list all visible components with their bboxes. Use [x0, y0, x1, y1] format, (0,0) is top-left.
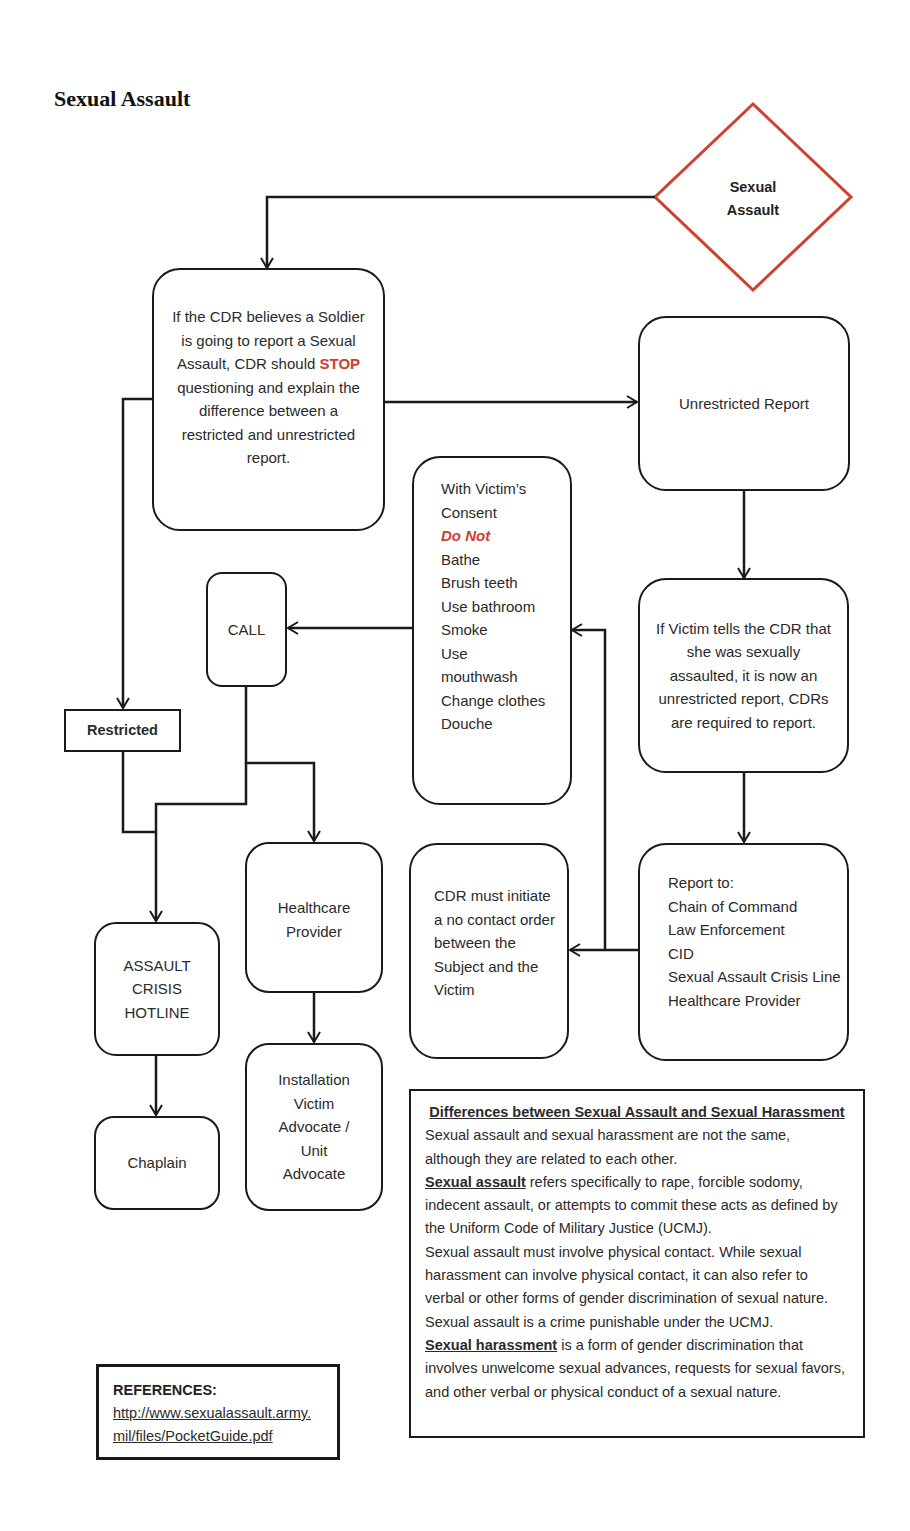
- call-box: CALL: [206, 572, 287, 687]
- references-heading: REFERENCES:: [113, 1379, 323, 1402]
- sexual-harassment-term: Sexual harassment: [425, 1337, 557, 1353]
- pocket-guide-link[interactable]: http://www.sexualassault.army.mil/files/…: [113, 1405, 311, 1444]
- report-to-item: Law Enforcement: [668, 918, 841, 942]
- report-to-item: Sexual Assault Crisis Line: [668, 965, 841, 989]
- victim-consent-box: With Victim’s Consent Do Not Bathe Brush…: [412, 456, 572, 805]
- restricted-box: Restricted: [64, 709, 181, 752]
- report-to-box: Report to: Chain of Command Law Enforcem…: [638, 843, 849, 1061]
- start-node-label: Sexual Assault: [700, 176, 806, 222]
- differences-heading: Differences between Sexual Assault and S…: [425, 1101, 849, 1124]
- consent-item: mouthwash: [441, 665, 545, 689]
- consent-item: Use: [441, 642, 545, 666]
- victim-tells-box: If Victim tells the CDR that she was sex…: [638, 578, 849, 773]
- consent-item: Use bathroom: [441, 595, 545, 619]
- sexual-assault-term: Sexual assault: [425, 1174, 526, 1190]
- consent-item: Douche: [441, 712, 545, 736]
- do-not-warning: Do Not: [441, 524, 545, 548]
- differences-info-box: Differences between Sexual Assault and S…: [409, 1089, 865, 1438]
- consent-item: Bathe: [441, 548, 545, 572]
- unrestricted-report-box: Unrestricted Report: [638, 316, 850, 491]
- cdr-guidance-box: If the CDR believes a Soldier is going t…: [152, 268, 385, 531]
- chaplain-box: Chaplain: [94, 1116, 220, 1210]
- report-to-item: Healthcare Provider: [668, 989, 841, 1013]
- healthcare-provider-box: Healthcare Provider: [245, 842, 383, 993]
- consent-item: Smoke: [441, 618, 545, 642]
- consent-item: Brush teeth: [441, 571, 545, 595]
- assault-crisis-hotline-box: ASSAULT CRISIS HOTLINE: [94, 922, 220, 1056]
- references-box: REFERENCES: http://www.sexualassault.arm…: [96, 1364, 340, 1460]
- stop-highlight: STOP: [319, 355, 360, 372]
- report-to-item: Chain of Command: [668, 895, 841, 919]
- victim-advocate-box: Installation Victim Advocate / Unit Advo…: [245, 1043, 383, 1211]
- report-to-item: CID: [668, 942, 841, 966]
- consent-item: Change clothes: [441, 689, 545, 713]
- no-contact-order-box: CDR must initiate a no contact order bet…: [409, 843, 569, 1059]
